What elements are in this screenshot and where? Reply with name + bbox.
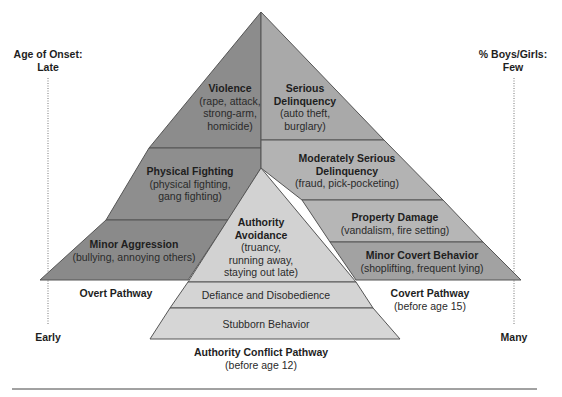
covert-pathway-label: Covert Pathway (before age 15) (380, 287, 480, 312)
authority-avoidance-label: Authority Avoidance (truancy, running aw… (216, 216, 306, 279)
overt-pathway-label: Overt Pathway (66, 287, 166, 300)
boys-girls-label: % Boys/Girls: Few (468, 48, 558, 74)
property-damage-label: Property Damage (vandalism, fire setting… (330, 211, 460, 236)
early-label: Early (22, 331, 74, 344)
defiance-label: Defiance and Disobedience (196, 289, 336, 302)
moderate-delinquency-label: Moderately Serious Delinquency (fraud, p… (282, 152, 412, 190)
many-label: Many (488, 331, 540, 344)
minor-covert-label: Minor Covert Behavior (shoplifting, freq… (348, 249, 496, 274)
minor-aggression-label: Minor Aggression (bullying, annoying oth… (66, 238, 202, 263)
violence-label: Violence (rape, attack, strong-arm, homi… (190, 82, 270, 132)
serious-delinquency-label: Serious Delinquency (auto theft, burglar… (263, 82, 347, 132)
stubborn-label: Stubborn Behavior (206, 318, 326, 331)
authority-pathway-label: Authority Conflict Pathway (before age 1… (186, 346, 336, 371)
age-onset-label: Age of Onset: Late (8, 48, 88, 74)
physical-fighting-label: Physical Fighting (physical fighting, ga… (130, 165, 250, 203)
